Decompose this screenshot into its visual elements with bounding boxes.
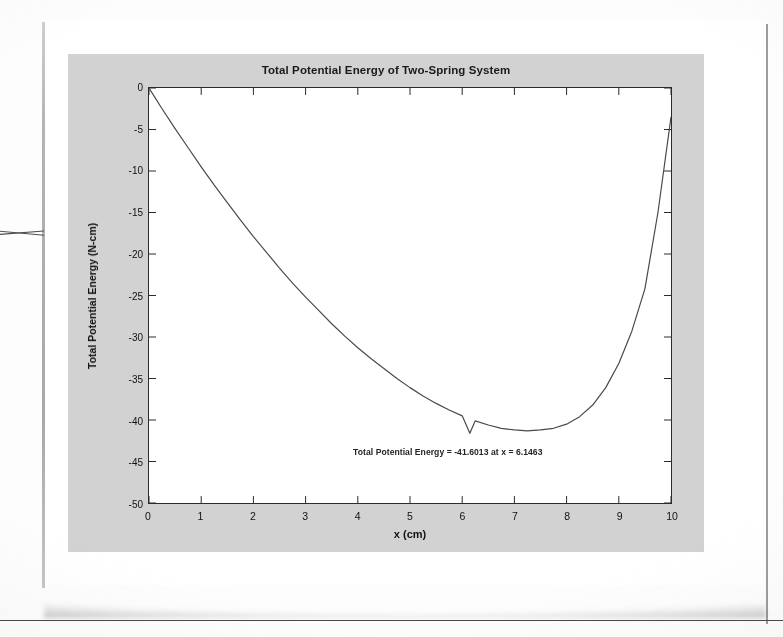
y-tick-label: -30 xyxy=(113,332,143,343)
x-tick-label: 9 xyxy=(608,510,632,522)
y-tick-label: -5 xyxy=(113,123,143,134)
y-tick-label: -40 xyxy=(113,415,143,426)
x-tick-label: 2 xyxy=(241,510,265,522)
x-tick-label: 6 xyxy=(450,510,474,522)
page-gutter-shadow xyxy=(42,22,45,588)
plot-axes: Total Potential Energy = -41.6013 at x =… xyxy=(148,87,672,504)
x-tick-label: 0 xyxy=(136,510,160,522)
x-tick-label: 8 xyxy=(555,510,579,522)
y-axis-tick-labels: 0-5-10-15-20-25-30-35-40-45-50 xyxy=(110,87,143,504)
page-right-rule xyxy=(766,24,768,624)
chart-title: Total Potential Energy of Two-Spring Sys… xyxy=(68,64,704,76)
y-tick-label: 0 xyxy=(113,82,143,93)
bottom-horizontal-rule xyxy=(0,620,783,621)
x-tick-label: 10 xyxy=(660,510,684,522)
x-axis-label: x (cm) xyxy=(148,528,672,540)
y-tick-label: -15 xyxy=(113,207,143,218)
y-tick-label: -10 xyxy=(113,165,143,176)
y-tick-label: -25 xyxy=(113,290,143,301)
y-axis-label-wrap: Total Potential Energy (N-cm) xyxy=(82,87,102,504)
y-tick-label: -45 xyxy=(113,457,143,468)
matlab-figure: Total Potential Energy of Two-Spring Sys… xyxy=(68,54,704,552)
x-tick-label: 5 xyxy=(398,510,422,522)
x-tick-label: 3 xyxy=(293,510,317,522)
x-tick-label: 1 xyxy=(188,510,212,522)
minimum-annotation: Total Potential Energy = -41.6013 at x =… xyxy=(353,447,542,457)
x-tick-label: 4 xyxy=(346,510,370,522)
x-tick-label: 7 xyxy=(503,510,527,522)
energy-curve xyxy=(149,88,671,433)
scanned-page: Total Potential Energy of Two-Spring Sys… xyxy=(0,0,783,637)
y-tick-label: -20 xyxy=(113,248,143,259)
y-tick-label: -50 xyxy=(113,499,143,510)
plot-canvas xyxy=(149,88,671,503)
x-axis-tick-labels: 012345678910 xyxy=(148,510,672,526)
y-axis-label: Total Potential Energy (N-cm) xyxy=(86,222,98,368)
book-spine-shadow xyxy=(44,574,766,618)
y-tick-label: -35 xyxy=(113,373,143,384)
axis-ticks xyxy=(149,88,671,503)
leader-arrow-icon xyxy=(0,228,46,238)
